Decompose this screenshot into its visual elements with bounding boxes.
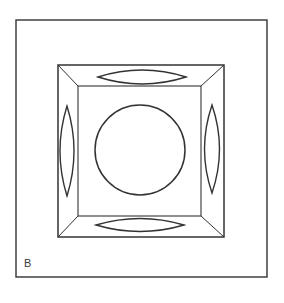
lens-left	[60, 106, 74, 196]
panel-label: B	[24, 257, 31, 269]
bevel-edge-top-left	[58, 65, 78, 86]
diagram-figure	[0, 0, 284, 303]
bevel-edge-bottom-left	[58, 216, 78, 237]
lens-top	[98, 70, 186, 84]
outer-frame	[16, 20, 267, 277]
bevel-outer-square	[58, 65, 224, 237]
bevel-edge-top-right	[201, 65, 224, 86]
lens-bottom	[96, 219, 184, 232]
center-circle	[95, 105, 185, 195]
bevel-edge-bottom-right	[201, 216, 224, 237]
lens-right	[205, 105, 220, 193]
